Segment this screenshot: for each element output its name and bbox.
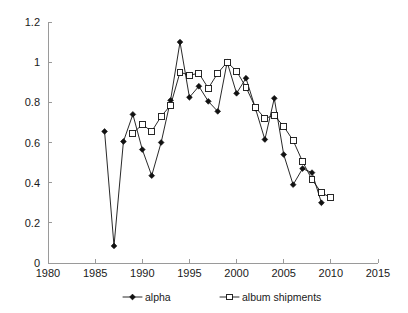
data-point-marker [130, 131, 136, 137]
chart-axes [48, 22, 378, 263]
data-point-marker [149, 173, 155, 179]
y-tick-label: 0 [34, 257, 40, 269]
x-tick-label: 2000 [224, 267, 248, 279]
chart-legend: alphaalbum shipments [123, 291, 321, 303]
data-point-marker [102, 129, 108, 135]
series-1 [102, 39, 325, 249]
data-point-marker [300, 166, 306, 172]
data-point-marker [281, 152, 287, 158]
data-point-marker [158, 113, 164, 119]
legend-label: album shipments [242, 291, 321, 303]
series-line-1 [105, 42, 322, 246]
data-point-marker [111, 243, 117, 249]
series-2 [130, 59, 334, 200]
x-tick-label: 1990 [130, 267, 154, 279]
data-point-marker [281, 124, 287, 130]
data-point-marker [149, 129, 155, 135]
y-tick-label: 0.4 [25, 177, 40, 189]
data-point-marker [243, 75, 249, 81]
data-point-marker [139, 122, 145, 128]
legend-item-1[interactable]: alpha [123, 291, 171, 303]
data-point-marker [139, 147, 145, 153]
data-point-marker [300, 159, 306, 165]
x-tick-label: 2015 [366, 267, 390, 279]
data-point-marker [309, 170, 315, 176]
data-point-marker [243, 84, 249, 90]
data-point-marker [177, 69, 183, 75]
data-point-marker [121, 139, 127, 145]
y-tick-label: 1.2 [25, 16, 40, 28]
data-point-marker [309, 177, 315, 183]
x-tick-label: 1985 [83, 267, 107, 279]
data-point-marker [187, 72, 193, 78]
legend-marker [130, 294, 136, 300]
data-point-marker [290, 138, 296, 144]
data-point-marker [319, 190, 325, 196]
data-point-marker [196, 70, 202, 76]
data-point-marker [328, 195, 334, 201]
legend-label: alpha [145, 291, 171, 303]
data-point-marker [290, 182, 296, 188]
series-line-2 [133, 62, 331, 198]
y-tick-label: 1 [34, 56, 40, 68]
chart-canvas: 19801985199019952000200520102015 00.20.4… [0, 0, 408, 313]
data-point-marker [253, 104, 259, 110]
data-point-marker [224, 59, 230, 65]
y-tick-label: 0.2 [25, 217, 40, 229]
data-point-marker [262, 116, 268, 122]
data-point-marker [271, 95, 277, 101]
data-point-marker [130, 111, 136, 117]
data-point-marker [168, 102, 174, 108]
legend-marker [227, 294, 233, 300]
data-point-marker [215, 70, 221, 76]
x-axis-ticks: 19801985199019952000200520102015 [36, 259, 390, 279]
y-tick-label: 0.8 [25, 96, 40, 108]
data-point-marker [271, 112, 277, 118]
data-point-marker [158, 140, 164, 146]
data-point-marker [205, 85, 211, 91]
x-tick-label: 2010 [319, 267, 343, 279]
x-tick-label: 2005 [271, 267, 295, 279]
data-point-marker [319, 200, 325, 206]
data-point-marker [177, 39, 183, 45]
line-chart: 19801985199019952000200520102015 00.20.4… [0, 0, 408, 313]
chart-series [102, 39, 334, 249]
legend-item-2[interactable]: album shipments [220, 291, 321, 303]
x-tick-label: 1995 [177, 267, 201, 279]
data-point-marker [234, 68, 240, 74]
data-point-marker [234, 90, 240, 96]
y-tick-label: 0.6 [25, 137, 40, 149]
data-point-marker [262, 137, 268, 143]
